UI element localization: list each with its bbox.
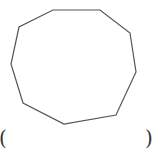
diagram-canvas [0,0,154,150]
nonagon-shape [11,10,136,124]
right-parenthesis: ) [145,128,153,148]
left-parenthesis: ( [0,128,7,148]
